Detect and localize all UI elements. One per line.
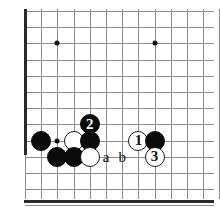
point-label-a: a: [103, 149, 110, 164]
star-point-upper-left: [55, 41, 60, 46]
grid-line-vertical-2: [57, 9, 58, 199]
grid-line-horizontal-5: [25, 92, 214, 93]
star-point-lower-left: [55, 138, 60, 143]
grid-line-horizontal-12: [25, 205, 214, 206]
go-board-diagram: 213 ab: [0, 0, 220, 216]
grid-line-vertical-5: [106, 9, 107, 199]
grid-line-horizontal-7: [25, 124, 214, 125]
grid-line-horizontal-4: [25, 76, 214, 77]
grid-line-vertical-7: [138, 9, 139, 199]
point-label-b: b: [118, 149, 126, 164]
white-stone-move-3-move-number: 3: [151, 149, 159, 164]
board-edge-left: [24, 9, 27, 155]
grid-line-horizontal-11: [25, 189, 214, 190]
grid-line-horizontal-6: [25, 108, 214, 109]
grid-line-horizontal-8: [25, 141, 214, 142]
grid-line-horizontal-1: [25, 27, 214, 28]
grid-line-vertical-12: [219, 9, 220, 199]
white-stone-lower: [80, 147, 100, 167]
grid-line-vertical-6: [122, 9, 123, 199]
white-stone-move-1-move-number: 1: [135, 133, 143, 148]
grid-line-vertical-8: [155, 9, 156, 199]
grid-line-vertical-4: [90, 9, 91, 199]
grid-line-vertical-1: [41, 9, 42, 199]
black-stone-left: [31, 131, 51, 151]
grid-line-horizontal-2: [25, 43, 214, 44]
board-edge-bottom: [24, 200, 214, 203]
grid-line-vertical-10: [187, 9, 188, 199]
grid-line-vertical-11: [203, 9, 204, 199]
grid-line-horizontal-10: [25, 173, 214, 174]
grid-line-vertical-3: [74, 9, 75, 199]
star-point-upper-right: [152, 41, 157, 46]
white-stone-move-3: 3: [145, 147, 165, 167]
grid-line-horizontal-0: [25, 11, 214, 12]
grid-line-horizontal-3: [25, 60, 214, 61]
grid-line-vertical-9: [171, 9, 172, 199]
